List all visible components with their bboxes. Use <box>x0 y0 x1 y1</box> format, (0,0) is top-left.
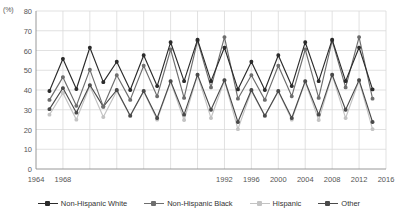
data-point-marker <box>276 53 280 57</box>
data-point-marker <box>249 88 253 92</box>
data-point-marker <box>128 88 132 92</box>
series-non-hispanic-white <box>48 38 375 93</box>
data-point-marker <box>290 94 294 98</box>
legend-item[interactable]: Other <box>318 199 360 208</box>
data-point-marker <box>142 64 146 68</box>
data-point-marker <box>101 105 105 109</box>
data-point-marker <box>155 116 159 120</box>
y-axis-tick-label: 20 <box>10 125 32 134</box>
data-point-marker <box>236 120 240 124</box>
data-point-marker <box>344 79 348 83</box>
data-point-marker <box>236 97 240 101</box>
data-point-marker <box>142 53 146 57</box>
data-point-marker <box>169 79 173 83</box>
legend-marker-icon <box>318 200 338 207</box>
data-point-marker <box>209 86 213 90</box>
data-point-marker <box>88 46 92 50</box>
data-point-marker <box>115 73 119 77</box>
data-point-marker <box>48 113 52 117</box>
data-point-marker <box>276 64 280 68</box>
data-point-marker <box>303 40 307 44</box>
x-axis-tick-label: 1992 <box>209 175 239 184</box>
data-point-marker <box>263 88 267 92</box>
data-point-marker <box>74 111 78 115</box>
data-point-marker <box>101 80 105 84</box>
data-point-marker <box>317 79 321 83</box>
data-point-marker <box>209 108 213 112</box>
x-axis-tick-label: 2012 <box>344 175 374 184</box>
data-point-marker <box>48 89 52 93</box>
data-point-marker <box>371 127 375 131</box>
legend-item[interactable]: Non-Hispanic White <box>38 199 127 208</box>
y-axis-tick-label: 40 <box>10 86 32 95</box>
data-point-marker <box>61 86 65 90</box>
y-axis-tick-label: 30 <box>10 105 32 114</box>
data-point-marker <box>344 116 348 120</box>
x-axis-tick-label: 2016 <box>371 175 398 184</box>
x-axis-tick-label: 2000 <box>263 175 293 184</box>
legend-item[interactable]: Non-Hispanic Black <box>144 199 232 208</box>
plot-area <box>36 11 386 169</box>
data-point-marker <box>48 107 52 111</box>
data-point-marker <box>357 78 361 82</box>
y-axis-tick-label: 0 <box>10 165 32 174</box>
data-point-marker <box>290 116 294 120</box>
y-axis-tick-label: 50 <box>10 66 32 75</box>
y-axis-tick-label: 10 <box>10 145 32 154</box>
legend-item[interactable]: Hispanic <box>250 199 302 208</box>
data-point-marker <box>357 35 361 39</box>
data-point-marker <box>182 79 186 83</box>
legend-label: Hispanic <box>273 199 302 208</box>
data-point-marker <box>169 40 173 44</box>
data-point-marker <box>236 127 240 131</box>
data-point-marker <box>317 113 321 117</box>
data-point-marker <box>223 78 227 82</box>
data-point-marker <box>101 115 105 119</box>
y-axis-tick-label: 80 <box>10 7 32 16</box>
data-point-marker <box>317 118 321 122</box>
data-point-marker <box>61 75 65 79</box>
data-point-marker <box>61 57 65 61</box>
data-point-marker <box>249 73 253 77</box>
data-point-marker <box>223 35 227 39</box>
legend-label: Non-Hispanic White <box>61 199 127 208</box>
legend-label: Non-Hispanic Black <box>167 199 232 208</box>
data-point-marker <box>142 89 146 93</box>
data-point-marker <box>182 118 186 122</box>
chart-container: (%) 01020304050607080 196419681992199620… <box>0 0 398 211</box>
data-point-marker <box>209 79 213 83</box>
data-point-marker <box>182 96 186 100</box>
data-point-marker <box>371 88 375 92</box>
data-point-marker <box>74 87 78 91</box>
data-point-marker <box>128 98 132 102</box>
data-point-marker <box>330 73 334 77</box>
data-point-marker <box>115 60 119 64</box>
data-point-marker <box>74 104 78 108</box>
data-point-marker <box>317 96 321 100</box>
data-point-marker <box>263 114 267 118</box>
data-point-marker <box>223 46 227 50</box>
data-point-marker <box>263 98 267 102</box>
data-point-marker <box>88 83 92 87</box>
data-point-marker <box>371 120 375 124</box>
series-line <box>49 37 372 107</box>
data-point-marker <box>155 84 159 88</box>
legend-marker-icon <box>250 200 270 207</box>
x-axis-tick-label: 2004 <box>290 175 320 184</box>
chart-plot-svg <box>36 11 386 169</box>
y-axis-tick-label: 70 <box>10 26 32 35</box>
data-point-marker <box>196 73 200 77</box>
data-point-marker <box>371 97 375 101</box>
x-axis-tick-label: 2008 <box>317 175 347 184</box>
legend-marker-icon <box>144 200 164 207</box>
data-point-marker <box>236 88 240 92</box>
legend-label: Other <box>341 199 360 208</box>
data-point-marker <box>330 38 334 42</box>
data-point-marker <box>249 60 253 64</box>
x-axis-tick-label: 1968 <box>48 175 78 184</box>
data-point-marker <box>115 88 119 92</box>
data-point-marker <box>276 89 280 93</box>
data-point-marker <box>303 79 307 83</box>
data-point-marker <box>209 116 213 120</box>
data-point-marker <box>196 38 200 42</box>
